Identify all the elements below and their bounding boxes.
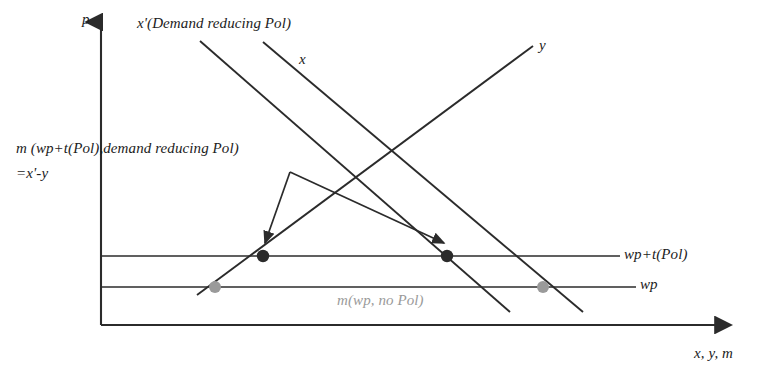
annotation-m-with-pol-line2: =x'-y bbox=[16, 164, 239, 183]
import-gap-arrow-group bbox=[265, 172, 444, 243]
y-axis-label: p bbox=[82, 10, 90, 29]
price-lines-group bbox=[101, 256, 636, 287]
marker-demand-x-at-wp bbox=[537, 281, 549, 293]
curve-label-y: y bbox=[539, 36, 546, 55]
price-line-label-wp-plus-t: wp+t(Pol) bbox=[624, 245, 688, 264]
gap-arrow-right bbox=[290, 172, 444, 243]
curve-label-x: x bbox=[299, 50, 306, 69]
marker-demand-xprime-at-wp-plus-t bbox=[441, 250, 453, 262]
annotation-m-with-pol-line1: m (wp+t(Pol),demand reducing Pol) bbox=[16, 140, 239, 156]
diagram-svg bbox=[0, 0, 769, 378]
price-line-label-wp: wp bbox=[640, 275, 658, 294]
marker-supply-at-wp-plus-t bbox=[257, 250, 269, 262]
diagram-canvas: p x, y, m x'(Demand reducing Pol) x y wp… bbox=[0, 0, 769, 378]
marker-supply-at-wp bbox=[209, 281, 221, 293]
gap-arrow-left bbox=[265, 172, 290, 243]
annotation-m-with-pol: m (wp+t(Pol),demand reducing Pol) =x'-y bbox=[16, 139, 239, 183]
curves-group bbox=[197, 41, 583, 312]
annotation-m-no-pol: m(wp, no Pol) bbox=[337, 291, 424, 310]
x-demand-curve bbox=[263, 42, 583, 312]
x-axis-label: x, y, m bbox=[694, 344, 733, 363]
x-prime-demand-curve bbox=[200, 41, 510, 312]
curve-label-x-prime: x'(Demand reducing Pol) bbox=[137, 14, 291, 33]
